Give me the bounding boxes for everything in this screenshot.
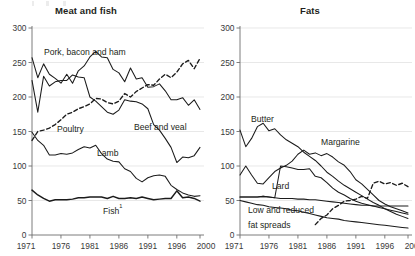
- x-tick-label: 2000: [405, 241, 415, 251]
- x-tick-label: 1996: [168, 241, 187, 251]
- x-tick-label: 1986: [318, 241, 337, 251]
- series-label-lowfat-line2: fat spreads: [248, 220, 291, 230]
- y-tick-label: 300: [221, 23, 235, 33]
- y-tick-label: 200: [13, 92, 27, 102]
- series-line-lamb: [32, 132, 200, 196]
- series-label-lowfat-line1: Low and reduced: [248, 205, 314, 215]
- chart-canvas-right: 0501001502002503001971197619811986199119…: [208, 0, 415, 256]
- series-label-butter: Butter: [251, 114, 274, 124]
- chart-panel-meat-and-fish: Meat and fish 05010015020025030019711976…: [0, 0, 207, 256]
- series-label-lamb: Lamb: [97, 148, 119, 158]
- series-label-lard: Lard: [272, 181, 289, 191]
- y-tick-label: 100: [13, 161, 27, 171]
- x-tick-label: 1971: [17, 241, 36, 251]
- y-tick-label: 150: [221, 127, 235, 137]
- x-tick-label: 1986: [110, 241, 129, 251]
- series-label-poultry: Poultry: [57, 124, 84, 134]
- series-line-margarine: [240, 150, 408, 213]
- y-tick-label: 250: [13, 58, 27, 68]
- series-line-fish: [32, 190, 200, 201]
- x-tick-label: 1976: [260, 241, 279, 251]
- y-tick-label: 150: [13, 127, 27, 137]
- y-tick-label: 100: [221, 161, 235, 171]
- x-tick-label: 1981: [81, 241, 100, 251]
- x-tick-label: 1991: [139, 241, 158, 251]
- series-label-beef: Beef and veal: [134, 122, 187, 132]
- chart-page: Meat and fish 05010015020025030019711976…: [0, 0, 415, 256]
- y-tick-label: 0: [22, 230, 27, 240]
- x-tick-label: 1976: [52, 241, 71, 251]
- y-tick-label: 0: [230, 230, 235, 240]
- series-label-fish: Fish1: [103, 203, 122, 216]
- x-tick-label: 1971: [225, 241, 244, 251]
- y-tick-label: 300: [13, 23, 27, 33]
- x-tick-label: 1991: [347, 241, 366, 251]
- y-tick-label: 250: [221, 58, 235, 68]
- y-tick-label: 50: [225, 196, 235, 206]
- x-tick-label: 1996: [376, 241, 395, 251]
- x-tick-label: 1981: [289, 241, 308, 251]
- series-label-margarine: Margarine: [321, 137, 360, 147]
- chart-panel-fats: Fats 05010015020025030019711976198119861…: [208, 0, 415, 256]
- series-label-pork: Pork, bacon and ham: [44, 47, 126, 57]
- chart-canvas-left: 0501001502002503001971197619811986199119…: [0, 0, 207, 256]
- series-line-pork-bacon-and-ham: [32, 51, 200, 109]
- y-tick-label: 50: [17, 196, 27, 206]
- y-tick-label: 200: [221, 92, 235, 102]
